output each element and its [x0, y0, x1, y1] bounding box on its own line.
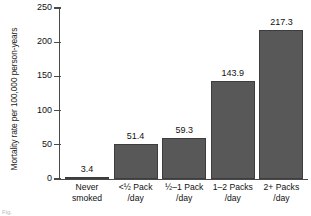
y-axis-line [59, 8, 60, 180]
bar [211, 81, 255, 179]
y-tick-label: 250 [37, 3, 52, 12]
bar [162, 138, 206, 179]
bar [65, 177, 109, 179]
y-tick-label: 200 [37, 37, 52, 46]
x-axis-line [59, 179, 308, 180]
x-axis-category-label: 2+ Packs/day [250, 182, 311, 203]
y-tick-mark [54, 42, 61, 43]
x-axis-category-line: /day [250, 193, 311, 204]
y-tick-mark [54, 110, 61, 111]
bar-value-label: 59.3 [154, 126, 214, 135]
y-tick-label: 100 [37, 106, 52, 115]
bar-value-label: 3.4 [57, 165, 117, 174]
y-axis-title: Mortality rate per 100,000 person-years [9, 12, 19, 187]
y-tick-label: 150 [37, 71, 52, 80]
y-tick-mark [54, 178, 61, 179]
figure-bar-chart: Mortality rate per 100,000 person-years … [0, 0, 311, 216]
y-tick-label: 50 [42, 140, 52, 149]
bar [259, 30, 303, 179]
y-tick-mark [54, 76, 61, 77]
bar-value-label: 143.9 [203, 69, 263, 78]
y-tick-label: 0 [47, 174, 52, 183]
x-axis-category-line: 2+ Packs [250, 182, 311, 193]
y-tick-mark [54, 144, 61, 145]
bar-value-label: 217.3 [251, 18, 311, 27]
figure-caption: Fig. [2, 209, 12, 216]
y-tick-mark [54, 7, 61, 8]
bar [114, 144, 158, 179]
